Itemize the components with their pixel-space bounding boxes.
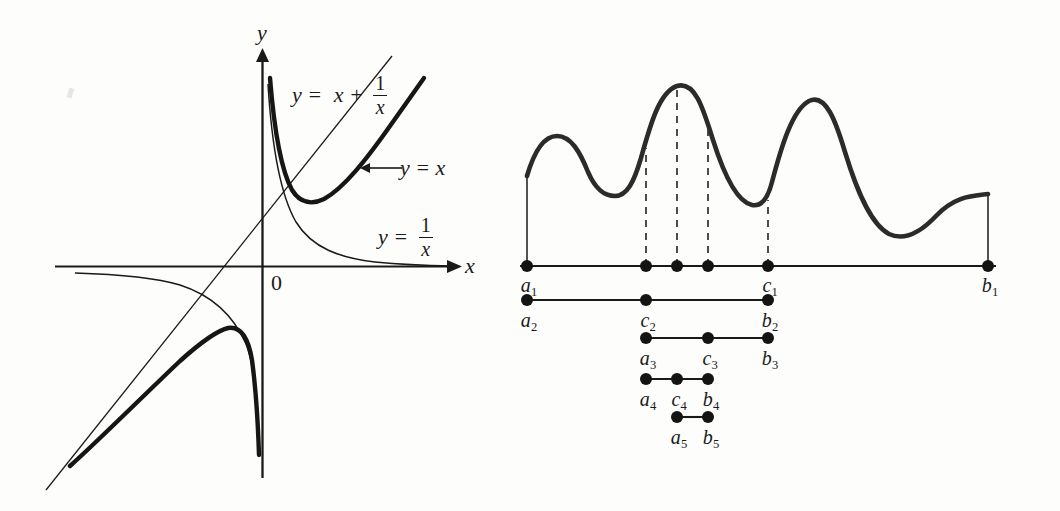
dot-b1	[982, 260, 994, 272]
origin-label: 0	[271, 272, 282, 294]
point-label-c1: c1	[762, 274, 777, 297]
label-y-equals-x: y = x	[400, 157, 445, 179]
point-label-a5: a5	[671, 426, 687, 449]
line-y-equals-x	[46, 56, 392, 490]
dot-a4	[640, 373, 652, 385]
right-figure: a1 c1 b1 a2 c2 b2 a3 c3 b3 a4 c4	[500, 0, 1060, 511]
point-label-b4: b4	[703, 388, 719, 411]
point-label-b5: b5	[703, 426, 719, 449]
function-curve	[527, 85, 988, 236]
left-figure: y = x + 1 x y = x y = 1 x x y	[0, 0, 500, 511]
pointer-arrow-icon	[360, 160, 404, 176]
curve-sum-lower-branch	[70, 328, 259, 466]
point-label-c4: c4	[671, 388, 686, 411]
label-y-equals-one-over-x: y = 1 x	[378, 216, 433, 261]
figure-page: y = x + 1 x y = x y = 1 x x y	[0, 0, 1060, 511]
point-label-a2: a2	[521, 309, 537, 332]
dot-c2	[640, 294, 652, 306]
dot-c3-on-axis	[702, 260, 714, 272]
point-label-c2: c2	[640, 309, 655, 332]
x-axis	[55, 260, 462, 273]
right-figure-canvas	[500, 0, 1060, 511]
y-axis-label: y	[257, 22, 267, 44]
curve-reciprocal-left-branch	[75, 273, 259, 455]
point-label-a3: a3	[640, 347, 656, 370]
label-y-equals-x-plus-one-over-x: y = x + 1 x	[292, 74, 387, 119]
point-label-b1: b1	[982, 274, 998, 297]
dot-c4-on-axis	[671, 260, 683, 272]
dot-c3	[702, 332, 714, 344]
dot-c4	[671, 373, 683, 385]
dashed-droplines	[646, 86, 768, 266]
dot-c2-on-axis	[640, 260, 652, 272]
x-axis-label: x	[465, 255, 475, 277]
dot-c1	[762, 260, 774, 272]
point-label-c3: c3	[702, 347, 717, 370]
point-label-b3: b3	[762, 347, 778, 370]
dot-b4	[702, 373, 714, 385]
point-label-a4: a4	[640, 388, 656, 411]
point-label-b2: b2	[762, 309, 778, 332]
interval-dots-row-4	[640, 373, 714, 385]
dot-a1	[521, 260, 533, 272]
point-label-a1: a1	[521, 274, 537, 297]
